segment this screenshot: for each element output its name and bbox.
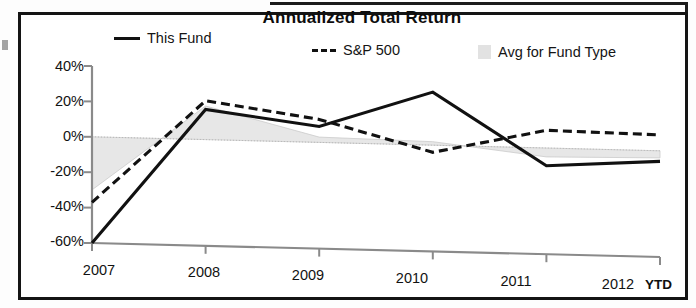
y-axis-ticks <box>84 66 92 243</box>
chart-plot-area <box>0 0 696 308</box>
chart-screenshot: Annualized Total Return This Fund S&P 50… <box>0 0 696 308</box>
x-axis-line <box>92 243 660 257</box>
series-area-avg-for-fund-type <box>92 106 660 190</box>
series-line-this-fund <box>92 92 660 243</box>
chart-svg <box>0 0 696 308</box>
